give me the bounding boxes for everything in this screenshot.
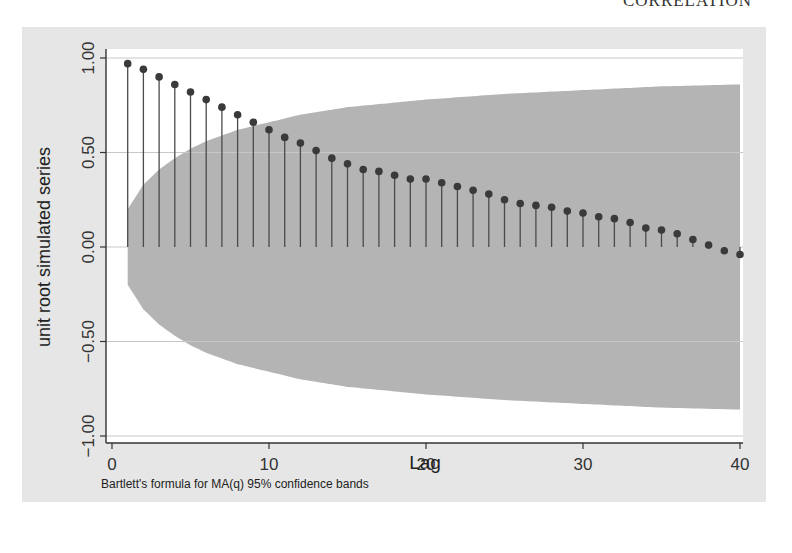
running-header: CORRELATION [623, 0, 752, 11]
acf-marker [548, 204, 556, 212]
x-tick-label: 0 [107, 455, 116, 474]
acf-marker [501, 196, 509, 204]
acf-marker [124, 60, 132, 68]
acf-marker [438, 179, 446, 187]
y-tick-label: 0.50 [79, 136, 98, 169]
y-axis-label: unit root simulated series [34, 147, 54, 347]
acf-marker [202, 96, 210, 104]
acf-chart: −1.00−0.500.000.501.00010203040 unit roo… [22, 27, 766, 502]
acf-marker [658, 226, 666, 234]
acf-marker [485, 190, 493, 198]
acf-marker [155, 73, 163, 81]
acf-marker [359, 166, 367, 174]
y-tick-label: −0.50 [79, 320, 98, 363]
acf-marker [187, 88, 195, 96]
acf-marker [673, 230, 681, 238]
acf-marker [721, 247, 729, 255]
acf-marker [407, 175, 415, 183]
acf-marker [312, 147, 320, 155]
acf-marker [375, 168, 383, 176]
acf-marker [611, 215, 619, 223]
acf-marker [422, 175, 430, 183]
acf-marker [532, 202, 540, 210]
acf-marker [579, 209, 587, 217]
x-tick-label: 30 [574, 455, 593, 474]
acf-marker [626, 219, 634, 227]
x-tick-label: 10 [260, 455, 279, 474]
acf-marker [642, 224, 650, 232]
x-axis-label: Lag [409, 452, 441, 473]
acf-marker [564, 207, 572, 215]
y-tick-label: −1.00 [79, 414, 98, 457]
chart-container: −1.00−0.500.000.501.00010203040 unit roo… [22, 27, 766, 502]
acf-marker [281, 134, 289, 142]
acf-marker [469, 187, 477, 195]
acf-marker [516, 200, 524, 208]
acf-marker [344, 160, 352, 168]
acf-marker [391, 171, 399, 179]
acf-marker [454, 183, 462, 191]
y-tick-label: 1.00 [79, 41, 98, 74]
acf-marker [328, 154, 336, 162]
acf-marker [218, 103, 226, 111]
acf-marker [595, 213, 603, 221]
acf-marker [234, 111, 242, 119]
x-tick-label: 40 [731, 455, 750, 474]
chart-note: Bartlett's formula for MA(q) 95% confide… [101, 477, 369, 491]
acf-marker [140, 66, 148, 74]
acf-marker [265, 126, 273, 134]
acf-marker [297, 139, 305, 147]
acf-marker [705, 241, 713, 249]
y-tick-label: 0.00 [79, 230, 98, 263]
acf-marker [689, 236, 697, 244]
acf-marker [171, 81, 179, 89]
acf-marker [250, 118, 258, 126]
acf-marker [736, 251, 744, 259]
